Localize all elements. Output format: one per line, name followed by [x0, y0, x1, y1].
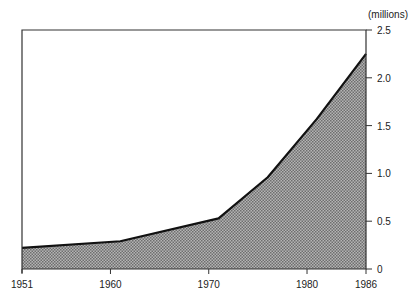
y-tick-label: 0: [377, 264, 383, 275]
y-tick-label: 0.5: [377, 216, 391, 227]
x-tick-label: 1960: [99, 279, 122, 290]
area-chart: 1951196019701980198600.51.01.52.02.5 (mi…: [0, 0, 411, 302]
y-tick-label: 1.0: [377, 168, 391, 179]
y-axis-unit-label: (millions): [368, 9, 408, 20]
y-tick-label: 1.5: [377, 121, 391, 132]
x-tick-label: 1951: [11, 279, 34, 290]
y-tick-label: 2.5: [377, 25, 391, 36]
x-tick-label: 1986: [355, 279, 378, 290]
y-tick-label: 2.0: [377, 73, 391, 84]
area-fill: [22, 54, 366, 269]
x-tick-label: 1980: [296, 279, 319, 290]
plot-area: [22, 54, 366, 269]
x-tick-label: 1970: [198, 279, 221, 290]
